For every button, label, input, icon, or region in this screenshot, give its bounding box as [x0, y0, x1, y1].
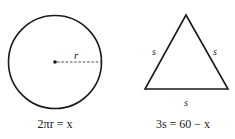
triangle-equation: 3s = 60 − x [156, 117, 210, 131]
triangle-base-label: s [184, 97, 188, 108]
circle-center-dot [53, 60, 57, 64]
triangle-figure: s s s 3s = 60 − x [145, 15, 228, 131]
triangle-right-side-label: s [213, 46, 217, 57]
diagram-canvas: r 2πr = x s s s 3s = 60 − x [0, 0, 235, 139]
triangle-left-side-label: s [152, 46, 156, 57]
circle-equation: 2πr = x [38, 117, 73, 131]
radius-label: r [74, 49, 79, 61]
circle-figure: r 2πr = x [9, 16, 102, 132]
